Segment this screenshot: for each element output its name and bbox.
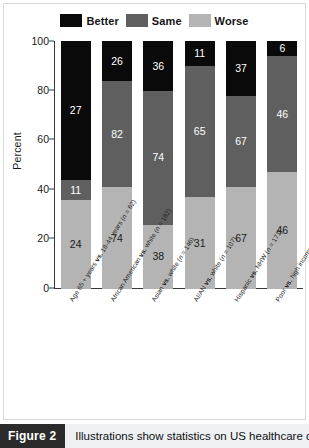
y-axis-ticks: 0 20 40 60 80 100 (0, 41, 49, 299)
figure-caption: Figure 2 Illustrations show statistics o… (0, 424, 309, 448)
bar-segment-value: 36 (152, 61, 164, 72)
y-tick-label-80: 80 (3, 84, 49, 96)
bar-segment-value: 27 (70, 105, 82, 116)
legend-swatch-better-icon (60, 14, 82, 27)
bar-segment-value: 11 (70, 185, 81, 196)
bar-segment-value: 31 (194, 238, 206, 249)
bar-segment-value: 6 (279, 43, 285, 54)
stacked-bar: 116531 (185, 41, 215, 289)
bar-segment-value: 38 (152, 251, 164, 262)
bar-segment-better: 26 (102, 41, 132, 81)
chart-legend: Better Same Worse (0, 14, 309, 27)
y-tick-label-0: 0 (3, 282, 49, 294)
bar-segment-value: 82 (111, 129, 123, 140)
bar-segment-value: 74 (152, 152, 164, 163)
bar-segment-value: 46 (276, 109, 288, 120)
bar-segment-value: 26 (111, 56, 123, 67)
bar-segment-better: 27 (61, 41, 91, 180)
bar-segment-same: 67 (226, 96, 256, 188)
figure-caption-tag: Figure 2 (0, 424, 65, 448)
figure-container: Better Same Worse Percent 0 20 40 60 80 … (0, 0, 309, 448)
y-tick-label-20: 20 (3, 232, 49, 244)
bar-segment-same: 82 (102, 81, 132, 188)
stacked-bar: 64646 (267, 41, 297, 289)
bar-segment-better: 11 (185, 41, 215, 66)
legend-swatch-worse-icon (189, 14, 211, 27)
bar-segment-same: 74 (143, 91, 173, 225)
figure-caption-text: Illustrations show statistics on US heal… (65, 424, 309, 448)
stacked-bar: 268274 (102, 41, 132, 289)
legend-swatch-same-icon (126, 14, 148, 27)
x-axis-category-labels: Age 65 + years vs. 18-44 years (n = 62)A… (0, 299, 309, 419)
legend-label-same: Same (152, 15, 182, 27)
y-tick-label-40: 40 (3, 183, 49, 195)
bar-segment-same: 65 (185, 66, 215, 197)
stacked-bar: 271124 (61, 41, 91, 289)
bar-segment-better: 6 (267, 41, 297, 56)
y-tick-label-100: 100 (3, 35, 49, 47)
bar-segment-same: 11 (61, 180, 91, 200)
bar-segment-better: 36 (143, 41, 173, 91)
stacked-bar: 367438 (143, 41, 173, 289)
legend-item-same: Same (126, 14, 182, 27)
stacked-bar: 376767 (226, 41, 256, 289)
legend-label-better: Better (86, 15, 118, 27)
y-tick-label-60: 60 (3, 133, 49, 145)
bar-segment-same: 46 (267, 56, 297, 173)
bar-segment-value: 24 (70, 239, 82, 250)
bar-segment-better: 37 (226, 41, 256, 96)
legend-label-worse: Worse (215, 15, 249, 27)
bar-segment-value: 11 (194, 48, 205, 59)
bar-segment-value: 65 (194, 126, 206, 137)
bar-segment-value: 67 (235, 136, 247, 147)
bar-segment-value: 37 (235, 63, 247, 74)
legend-item-better: Better (60, 14, 118, 27)
legend-item-worse: Worse (189, 14, 249, 27)
